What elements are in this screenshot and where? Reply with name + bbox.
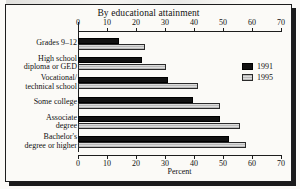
x-axis-tick-label: 60 xyxy=(248,18,256,27)
x-axis-tick xyxy=(107,28,108,32)
x-axis-tick xyxy=(165,28,166,32)
x-axis-tick-label: 40 xyxy=(190,18,198,27)
x-axis-tick-label: 50 xyxy=(219,18,227,27)
category-label-3: Vocational/technical school xyxy=(13,74,77,91)
figure-container: By educational attainment 01020304050607… xyxy=(0,0,300,189)
bar-1991-1 xyxy=(78,38,119,44)
category-label-line: degree or higher xyxy=(13,142,77,150)
legend-item-1991: 1991 xyxy=(242,61,273,72)
legend-item-1995: 1995 xyxy=(242,72,273,83)
x-axis-top: 010203040506070 xyxy=(78,20,281,32)
chart-legend: 19911995 xyxy=(242,61,273,83)
category-label-4: Some college xyxy=(13,98,77,106)
bar-1995-6 xyxy=(78,142,246,148)
category-label-2: High schooldiploma or GED xyxy=(13,55,77,72)
x-axis-tick xyxy=(281,28,282,32)
x-axis-tick-label: 70 xyxy=(277,18,285,27)
x-axis-tick xyxy=(223,28,224,32)
bar-1991-3 xyxy=(78,77,168,83)
category-axis-labels: Grades 9–12High schooldiploma or GEDVoca… xyxy=(13,34,77,152)
x-axis-tick-label: 30 xyxy=(161,18,169,27)
chart-title: By educational attainment xyxy=(6,8,291,18)
plot-area xyxy=(78,34,281,152)
gray-hatched-swatch-icon xyxy=(242,74,253,81)
bar-1995-3 xyxy=(78,83,198,89)
category-label-5: Associatedegree xyxy=(13,114,77,131)
bar-1991-6 xyxy=(78,136,229,142)
bar-1995-5 xyxy=(78,123,240,129)
x-axis-tick xyxy=(252,28,253,32)
bar-1991-4 xyxy=(78,97,193,103)
x-axis-title: Percent xyxy=(78,167,281,176)
category-label-line: diploma or GED xyxy=(13,63,77,71)
category-label-6: Bachelor'sdegree or higher xyxy=(13,133,77,150)
bar-1991-5 xyxy=(78,116,220,122)
bar-1995-1 xyxy=(78,44,145,50)
legend-label: 1995 xyxy=(257,73,273,82)
x-axis-bottom: 010203040506070 xyxy=(78,155,281,167)
x-axis-tick-label: 20 xyxy=(132,18,140,27)
black-solid-swatch-icon xyxy=(242,63,253,70)
x-axis-tick-label: 10 xyxy=(103,18,111,27)
bar-1991-2 xyxy=(78,57,142,63)
chart-frame: By educational attainment 01020304050607… xyxy=(5,4,292,182)
x-axis-tick xyxy=(194,28,195,32)
bar-1995-2 xyxy=(78,64,166,70)
legend-label: 1991 xyxy=(257,62,273,71)
bar-1995-4 xyxy=(78,103,220,109)
category-label-line: Some college xyxy=(13,98,77,106)
category-label-1: Grades 9–12 xyxy=(13,39,77,47)
category-label-line: degree xyxy=(13,122,77,130)
category-label-line: technical school xyxy=(13,83,77,91)
x-axis-tick xyxy=(136,28,137,32)
category-label-line: Grades 9–12 xyxy=(13,39,77,47)
